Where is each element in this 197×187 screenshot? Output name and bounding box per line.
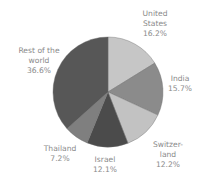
label-switzerland: Switzer- land 12.2% bbox=[146, 140, 190, 170]
label-text: Thailand bbox=[40, 144, 80, 154]
label-thailand: Thailand 7.2% bbox=[40, 144, 80, 164]
label-text: world bbox=[14, 56, 64, 66]
label-value: 15.7% bbox=[163, 84, 197, 94]
label-value: 12.1% bbox=[88, 165, 122, 175]
label-value: 36.6% bbox=[14, 66, 64, 76]
label-text: Rest of the bbox=[14, 46, 64, 56]
label-text: Switzer- bbox=[146, 140, 190, 150]
label-text: United bbox=[133, 9, 177, 19]
label-value: 7.2% bbox=[40, 154, 80, 164]
label-text: States bbox=[133, 19, 177, 29]
label-text: land bbox=[146, 150, 190, 160]
label-rest-of-world: Rest of the world 36.6% bbox=[14, 46, 64, 76]
label-israel: Israel 12.1% bbox=[88, 155, 122, 175]
label-value: 16.2% bbox=[133, 29, 177, 39]
label-united-states: United States 16.2% bbox=[133, 9, 177, 39]
label-india: India 15.7% bbox=[163, 74, 197, 94]
label-text: India bbox=[163, 74, 197, 84]
label-value: 12.2% bbox=[146, 160, 190, 170]
label-text: Israel bbox=[88, 155, 122, 165]
